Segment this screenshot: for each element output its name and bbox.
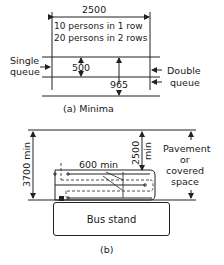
double-queue-label-1: Double — [167, 66, 201, 76]
overall-depth-label: 3700 min — [22, 142, 32, 187]
capacity-line-1: 10 persons in 1 row — [54, 22, 143, 31]
pavement-label-2: or — [180, 155, 190, 165]
pavement-label-1: Pavement — [163, 144, 210, 154]
bus-stand-box: Bus stand — [53, 202, 170, 236]
shelter-depth-label-1: 2500 — [131, 141, 141, 165]
queue-spacing-label: 600 min — [79, 160, 118, 170]
single-queue-width-label: 500 — [72, 63, 90, 73]
figure-a-caption: (a) Minima — [63, 104, 114, 114]
single-queue-label-2: queue — [10, 67, 40, 77]
bus-stand-label: Bus stand — [87, 214, 137, 225]
width-dimension-label: 2500 — [82, 5, 106, 15]
figure-b-caption: (b) — [100, 245, 113, 255]
double-queue-label-2: queue — [170, 78, 200, 88]
pavement-label-3: covered — [166, 166, 204, 176]
double-queue-width-label: 965 — [110, 80, 128, 90]
shelter-depth-label-2: min — [143, 142, 153, 160]
pavement-label-4: space — [171, 177, 199, 187]
single-queue-label-1: Single — [10, 56, 39, 66]
capacity-line-2: 20 persons in 2 rows — [54, 34, 147, 43]
